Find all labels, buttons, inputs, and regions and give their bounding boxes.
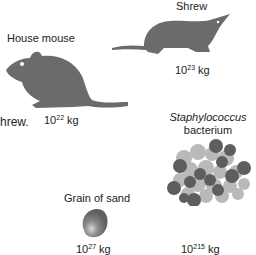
- shrew-text-fragment: hrew.: [0, 115, 29, 129]
- house-mouse-label: House mouse: [7, 32, 75, 44]
- bacterium-label: bacterium: [160, 124, 256, 136]
- bacteria-cluster-icon: [160, 138, 256, 206]
- grain-of-sand-icon: [78, 206, 110, 240]
- shrew-icon: [112, 12, 248, 60]
- grain-of-sand-label: Grain of sand: [64, 192, 130, 204]
- shrew-label: Shrew: [176, 0, 207, 12]
- house-mouse-mass: 1022 kg: [44, 114, 79, 126]
- grain-of-sand-mass: 1027 kg: [76, 243, 111, 255]
- house-mouse-icon: [2, 46, 130, 112]
- shrew-mass: 1023 kg: [175, 64, 210, 76]
- staphylococcus-mass: 10215 kg: [181, 243, 220, 255]
- staphylococcus-label: Staphylococcus: [160, 111, 256, 123]
